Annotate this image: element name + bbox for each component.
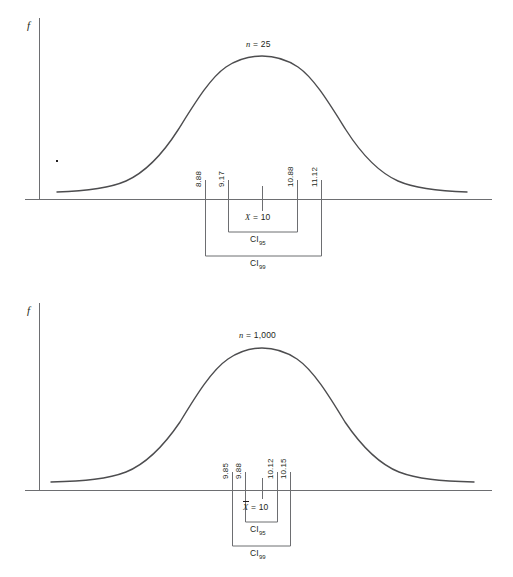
ci99-bracket: [233, 491, 291, 546]
mean-variable: X: [245, 212, 250, 222]
tick-label-lower-95: 9.17: [217, 171, 226, 187]
ci99-label-sub: 99: [259, 264, 266, 270]
normal-curve: [57, 56, 467, 192]
ci95-label-text: CI: [250, 524, 259, 534]
tick-label-upper-95: 10.12: [266, 458, 275, 479]
tick-label-upper-95: 10.88: [286, 166, 295, 187]
tick-label-lower-99: 9.85: [221, 463, 230, 479]
sample-size-label: n = 25: [246, 39, 271, 49]
mean-value: = 10: [253, 212, 271, 222]
tick-label-upper-99: 11.12: [310, 167, 319, 187]
ci95-label-sub: 95: [259, 240, 266, 246]
y-axis-label: f: [27, 305, 30, 316]
ci95-label-text: CI: [250, 234, 259, 244]
ci95-label: CI95: [250, 234, 266, 246]
ci99-label: CI99: [250, 548, 266, 560]
mean-value: = 10: [251, 502, 269, 512]
sample-size-label: n = 1,000: [239, 330, 276, 340]
mean-label: X = 10: [243, 502, 269, 512]
sample-size-value: = 25: [253, 39, 271, 49]
tick-label-upper-99: 10.15: [279, 458, 288, 479]
normal-curve: [51, 348, 474, 482]
sample-size-value: = 1,000: [246, 330, 276, 340]
sample-size-variable: n: [246, 39, 250, 49]
ci99-label: CI99: [250, 258, 266, 270]
sample-size-variable: n: [239, 330, 243, 340]
y-axis-label: f: [27, 20, 30, 31]
tick-label-lower-95: 9.88: [234, 463, 243, 479]
ci99-bracket: [206, 200, 322, 256]
tick-label-lower-99: 8.88: [194, 171, 203, 187]
distribution-panel-n25: f n = 25 8.88 9.17 10.88 11.12 X = 10 CI…: [0, 0, 513, 290]
ci99-label-text: CI: [250, 548, 259, 558]
ci99-label-sub: 99: [259, 554, 266, 560]
mean-variable: X: [243, 502, 248, 512]
scan-speck: [56, 160, 58, 162]
mean-label: X = 10: [245, 212, 271, 222]
ci99-label-text: CI: [250, 258, 259, 268]
distribution-panel-n1000: f n = 1,000 9.85 9.88 10.12 10.15 X = 10…: [0, 290, 513, 577]
ci95-label: CI95: [250, 524, 266, 536]
ci95-label-sub: 95: [259, 530, 266, 536]
